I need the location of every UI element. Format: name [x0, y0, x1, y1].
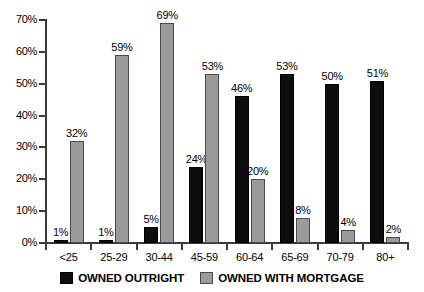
x-axis-category-label: 80+	[355, 251, 415, 263]
bar-value-label: 8%	[287, 205, 319, 216]
bar-value-label: 59%	[106, 42, 138, 53]
y-axis-tick-label: 40%	[0, 110, 37, 121]
bar-owned-outright	[144, 227, 158, 243]
y-axis-tick	[39, 146, 46, 148]
legend-swatch-icon-owned-with-mortgage	[200, 272, 213, 284]
y-axis-tick-label: 50%	[0, 78, 37, 89]
legend-label-owned-outright: OWNED OUTRIGHT	[78, 272, 184, 284]
bar-owned-with-mortgage	[160, 23, 174, 243]
y-axis-tick-label: 60%	[0, 46, 37, 57]
x-axis-tick	[181, 243, 183, 250]
bar-owned-with-mortgage	[115, 55, 129, 243]
bar-value-label: 69%	[151, 10, 183, 21]
legend-swatch-icon-owned-outright	[60, 272, 73, 284]
bar-owned-with-mortgage	[205, 74, 219, 243]
bar-owned-with-mortgage	[70, 141, 84, 243]
legend-item-owned-with-mortgage: OWNED WITH MORTGAGE	[200, 272, 364, 284]
bar-owned-outright	[189, 167, 203, 243]
x-axis-tick	[407, 243, 409, 250]
x-axis-tick	[136, 243, 138, 250]
bar-value-label: 32%	[61, 128, 93, 139]
x-axis-tick	[317, 243, 319, 250]
bar-owned-outright	[54, 240, 68, 243]
x-axis-tick	[226, 243, 228, 250]
bar-value-label: 53%	[271, 61, 303, 72]
bar-owned-outright	[370, 81, 384, 243]
y-axis-tick	[39, 178, 46, 180]
bar-owned-outright	[99, 240, 113, 243]
x-axis-tick	[362, 243, 364, 250]
y-axis-tick-label: 0%	[0, 237, 37, 248]
x-axis-tick	[90, 243, 92, 250]
bar-owned-with-mortgage	[341, 230, 355, 243]
bar-value-label: 2%	[377, 224, 409, 235]
y-axis-tick-label: 20%	[0, 173, 37, 184]
bar-owned-outright	[280, 74, 294, 243]
bar-owned-with-mortgage	[251, 179, 265, 243]
y-axis-tick-label: 70%	[0, 14, 37, 25]
legend-label-owned-with-mortgage: OWNED WITH MORTGAGE	[218, 272, 364, 284]
bar-value-label: 46%	[226, 83, 258, 94]
y-axis-tick	[39, 210, 46, 212]
bar-value-label: 4%	[332, 217, 364, 228]
y-axis-tick-label: 10%	[0, 205, 37, 216]
bar-chart: 0%10%20%30%40%50%60%70% 1%32%1%59%5%69%2…	[0, 0, 424, 292]
bar-value-label: 50%	[316, 71, 348, 82]
bar-owned-with-mortgage	[296, 218, 310, 243]
x-axis-tick	[45, 243, 47, 250]
y-axis-tick-label: 30%	[0, 141, 37, 152]
legend-item-owned-outright: OWNED OUTRIGHT	[60, 272, 184, 284]
bar-value-label: 53%	[196, 61, 228, 72]
y-axis-tick	[39, 83, 46, 85]
y-axis-tick	[39, 19, 46, 21]
y-axis-tick	[39, 115, 46, 117]
bar-value-label: 20%	[242, 166, 274, 177]
x-axis-tick	[271, 243, 273, 250]
chart-legend: OWNED OUTRIGHT OWNED WITH MORTGAGE	[0, 268, 424, 288]
bar-value-label: 51%	[361, 68, 393, 79]
plot-area: 1%32%1%59%5%69%24%53%46%20%53%8%50%4%51%…	[46, 20, 408, 243]
y-axis-tick	[39, 51, 46, 53]
bar-owned-with-mortgage	[386, 237, 400, 243]
